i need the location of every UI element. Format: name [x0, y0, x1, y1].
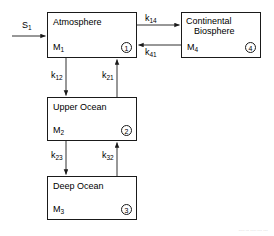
mass-symbol: M [53, 204, 61, 214]
mass-subscript: 1 [61, 46, 65, 53]
mass-subscript: 4 [195, 46, 199, 53]
flow-label-k21: k21 [102, 70, 114, 80]
box-deep-ocean-mass: M3 [53, 204, 64, 214]
rate-symbol: k [145, 47, 150, 57]
flow-label-k12: k12 [51, 70, 63, 80]
box-upper-ocean-title: Upper Ocean [53, 102, 107, 112]
mass-subscript: 2 [61, 129, 65, 136]
flow-label-k32: k32 [102, 150, 114, 160]
rate-subscript: 12 [56, 74, 63, 81]
carbon-cycle-diagram: Atmosphere M1 1 Continental Biosphere M4… [0, 0, 274, 236]
flow-label-k23: k23 [51, 150, 63, 160]
rate-symbol: k [145, 13, 150, 23]
rate-subscript: 23 [56, 154, 63, 161]
box-upper-ocean[interactable]: Upper Ocean M2 2 [47, 97, 137, 141]
box-continental-biosphere-index: 4 [245, 42, 256, 53]
rate-subscript: 14 [150, 17, 157, 24]
rate-symbol: k [51, 150, 56, 160]
rate-symbol: k [51, 70, 56, 80]
rate-subscript: 32 [107, 154, 114, 161]
box-upper-ocean-mass: M2 [53, 125, 64, 135]
rate-symbol: k [102, 70, 107, 80]
box-atmosphere-mass: M1 [53, 42, 64, 52]
box-deep-ocean-title: Deep Ocean [53, 181, 104, 191]
footer-caption: ····· ··· ····· ···· ···· [239, 229, 268, 233]
rate-symbol: k [102, 150, 107, 160]
title-line-2: Biosphere [186, 26, 235, 36]
flow-label-k41: k41 [145, 47, 157, 57]
box-continental-biosphere-title: Continental Biosphere [186, 16, 235, 36]
rate-subscript: 21 [107, 74, 114, 81]
box-deep-ocean[interactable]: Deep Ocean M3 3 [47, 176, 137, 220]
mass-symbol: M [53, 125, 61, 135]
mass-subscript: 3 [61, 208, 65, 215]
box-atmosphere-index: 1 [121, 42, 132, 53]
box-atmosphere-title: Atmosphere [53, 17, 102, 27]
mass-symbol: M [187, 42, 195, 52]
flux-subscript: 1 [28, 24, 32, 31]
mass-symbol: M [53, 42, 61, 52]
box-continental-biosphere-mass: M4 [187, 42, 198, 52]
rate-subscript: 41 [150, 51, 157, 58]
box-atmosphere[interactable]: Atmosphere M1 1 [47, 12, 137, 58]
flow-label-k14: k14 [145, 13, 157, 23]
flux-label-s1: S1 [22, 20, 32, 30]
box-continental-biosphere[interactable]: Continental Biosphere M4 4 [181, 12, 261, 58]
box-deep-ocean-index: 3 [121, 204, 132, 215]
box-upper-ocean-index: 2 [121, 125, 132, 136]
title-line-1: Continental [186, 16, 232, 26]
